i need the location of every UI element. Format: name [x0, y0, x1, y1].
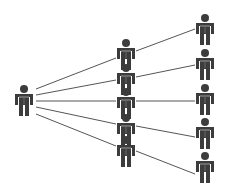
person-icon: [117, 136, 135, 167]
connector-line: [136, 29, 195, 51]
person-icon: [196, 118, 214, 149]
person-icon: [15, 85, 33, 116]
connector-line: [36, 80, 116, 95]
person-icon: [196, 84, 214, 115]
diagram-canvas: [0, 0, 231, 193]
org-fanout-diagram: [0, 0, 231, 193]
person-icon: [196, 49, 214, 80]
connector-line: [36, 58, 116, 89]
person-nodes: [15, 14, 214, 183]
connector-line: [136, 151, 195, 174]
connector-line: [136, 65, 195, 77]
connector-line: [36, 114, 116, 146]
person-icon: [196, 14, 214, 45]
connector-line: [36, 107, 116, 124]
connector-line: [136, 126, 195, 137]
person-icon: [196, 152, 214, 183]
connector-lines: [36, 29, 195, 174]
